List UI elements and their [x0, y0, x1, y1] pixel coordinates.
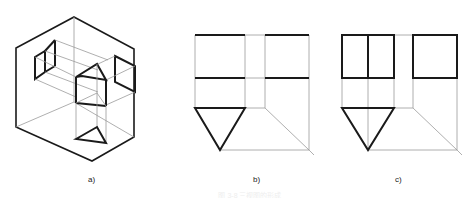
top-view-triangle-b: [195, 108, 245, 150]
floor-projection: [76, 127, 106, 143]
prism-top: [76, 64, 106, 80]
subfigure-label-a: a): [88, 175, 95, 184]
front-view-left-c: [342, 35, 368, 78]
three-view-diagram: [0, 0, 472, 201]
side-view-c: [413, 35, 457, 78]
subfigure-label-b: b): [253, 175, 260, 184]
three-view-b: [195, 35, 314, 155]
three-view-c: [342, 35, 462, 155]
left-wall-projection: [35, 51, 45, 79]
figure-caption: 图 3-8 三视图的形成: [190, 190, 310, 198]
subfigure-label-c: c): [395, 175, 402, 184]
isometric-view: [16, 17, 135, 161]
front-view-right-c: [368, 35, 394, 78]
